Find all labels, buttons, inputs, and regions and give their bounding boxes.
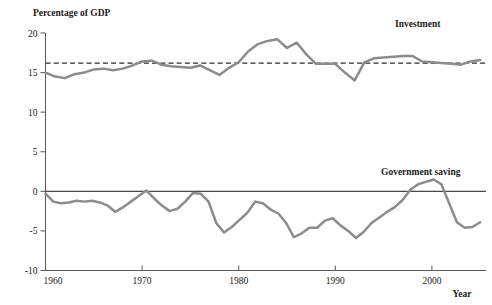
y-axis-title: Percentage of GDP (33, 8, 111, 18)
x-tick-label: 1970 (133, 276, 152, 286)
x-tick-label: 1990 (326, 276, 345, 286)
investment-series-label: Investment (395, 19, 441, 29)
x-axis-title: Year (453, 289, 473, 299)
y-tick-label: 15 (28, 68, 38, 78)
x-tick-label: 1980 (229, 276, 248, 286)
y-tick-label: 10 (28, 108, 38, 118)
y-tick-label: 5 (33, 147, 38, 157)
government-saving-series-label: Government saving (381, 167, 461, 177)
x-tick-label: 1960 (44, 276, 63, 286)
y-tick-label: 20 (28, 29, 38, 39)
chart-background (0, 0, 492, 305)
economics-line-chart: Percentage of GDP 20151050-5-10 19601970… (0, 0, 492, 305)
chart-figure: Percentage of GDP 20151050-5-10 19601970… (0, 0, 492, 305)
x-tick-label: 2000 (422, 276, 441, 286)
y-tick-label: -10 (25, 266, 38, 276)
y-tick-label: 0 (33, 187, 38, 197)
y-tick-label: -5 (30, 226, 38, 236)
